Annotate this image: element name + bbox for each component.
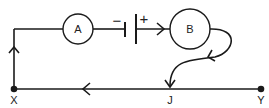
node-x-dot xyxy=(11,86,18,93)
node-x-label: X xyxy=(10,94,18,106)
node-y-label: Y xyxy=(257,94,265,106)
component-b-label: B xyxy=(186,23,193,35)
node-y-dot xyxy=(258,86,265,93)
battery-negative-sign: − xyxy=(113,12,122,29)
arrow-curve-icon xyxy=(208,50,215,61)
battery-positive-sign: + xyxy=(140,10,149,27)
node-j-label: J xyxy=(167,94,173,106)
circuit-diagram: A − + B X J Y xyxy=(0,0,269,108)
component-a-label: A xyxy=(74,23,82,35)
